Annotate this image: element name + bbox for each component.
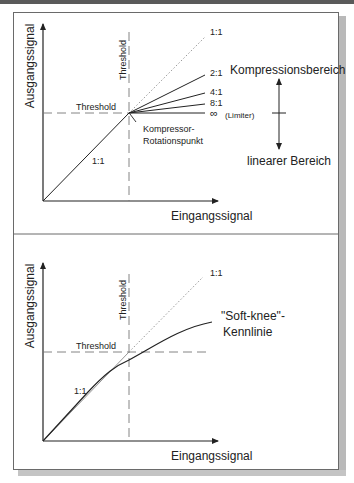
y-axis-label: Ausgangssignal <box>23 264 37 349</box>
linear-ratio-label: 1:1 <box>74 386 87 396</box>
rotation-point-label-1: Kompressor- <box>143 124 195 134</box>
softknee-label-1: "Soft-knee"- <box>221 309 285 323</box>
threshold-v-label: Threshold <box>118 40 128 80</box>
compressor-diagrams: Ausgangssignal Eingangssignal Threshold … <box>0 0 354 483</box>
ratio-4-1-line <box>129 93 205 113</box>
bottom-diagram: Ausgangssignal Eingangssignal Threshold … <box>23 263 285 463</box>
linear-region-label: linearer Bereich <box>247 154 331 168</box>
softknee-label-2: Kennlinie <box>223 325 273 339</box>
y-axis-label: Ausgangssignal <box>23 24 37 109</box>
threshold-v-label: Threshold <box>118 280 128 320</box>
linear-ratio-label: 1:1 <box>92 156 105 166</box>
ratio-label-4-1: 4:1 <box>210 87 223 97</box>
rotation-point-pointer <box>130 114 136 122</box>
threshold-h-label: Threshold <box>76 102 116 112</box>
x-axis-label: Eingangssignal <box>171 209 252 223</box>
compression-region-label: Kompressionsbereich <box>230 63 345 77</box>
ratio-label-2-1: 2:1 <box>210 68 223 78</box>
limiter-label: (Limiter) <box>225 111 255 120</box>
ratio-2-1-line <box>129 75 205 113</box>
ratio-8-1-line <box>129 104 205 113</box>
rotation-point-label-2: Rotationspunkt <box>143 136 204 146</box>
ratio-label-1-1: 1:1 <box>210 27 223 37</box>
ratio-1-1-dotted-line <box>129 277 203 352</box>
linear-1-1-line <box>43 113 129 201</box>
ratio-1-1-dotted-line <box>129 37 205 113</box>
threshold-h-label: Threshold <box>76 341 116 351</box>
ratio-label-infinity: ∞ <box>210 107 218 119</box>
soft-knee-curve <box>43 322 212 441</box>
x-axis-label: Eingangssignal <box>171 449 252 463</box>
diagonal-label: 1:1 <box>210 268 223 278</box>
top-diagram: Ausgangssignal Eingangssignal Threshold … <box>23 24 345 223</box>
